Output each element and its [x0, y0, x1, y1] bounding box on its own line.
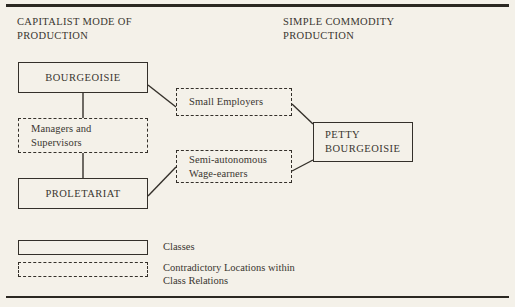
legend-swatch-classes [18, 240, 148, 255]
node-petty-bourgeoisie: PETTY BOURGEOISIE [313, 122, 413, 162]
connector-small-employers-petty [292, 104, 313, 124]
node-managers-and-supervisors: Managers and Supervisors [18, 118, 148, 153]
connector-bourgeoisie-small-employers [148, 85, 176, 107]
class-structure-diagram: CAPITALIST MODE OF PRODUCTION SIMPLE COM… [0, 0, 515, 307]
legend-label-classes: Classes [163, 240, 195, 253]
top-rule [6, 4, 509, 7]
legend-label-contradictory-locations: Contradictory Locations within Class Rel… [163, 261, 295, 287]
bottom-rule [6, 296, 509, 298]
connector-proletariat-semi-autonomous [148, 167, 176, 196]
heading-simple-commodity-production: SIMPLE COMMODITY PRODUCTION [283, 15, 394, 42]
node-proletariat: PROLETARIAT [18, 178, 148, 209]
legend-swatch-contradictory-locations [18, 262, 148, 277]
heading-capitalist-mode-of-production: CAPITALIST MODE OF PRODUCTION [17, 15, 132, 42]
node-bourgeoisie: BOURGEOISIE [18, 62, 148, 93]
node-semi-autonomous-wage-earners: Semi-autonomous Wage-earners [176, 150, 292, 183]
node-small-employers: Small Employers [176, 88, 292, 116]
connector-semi-autonomous-petty [292, 160, 313, 171]
